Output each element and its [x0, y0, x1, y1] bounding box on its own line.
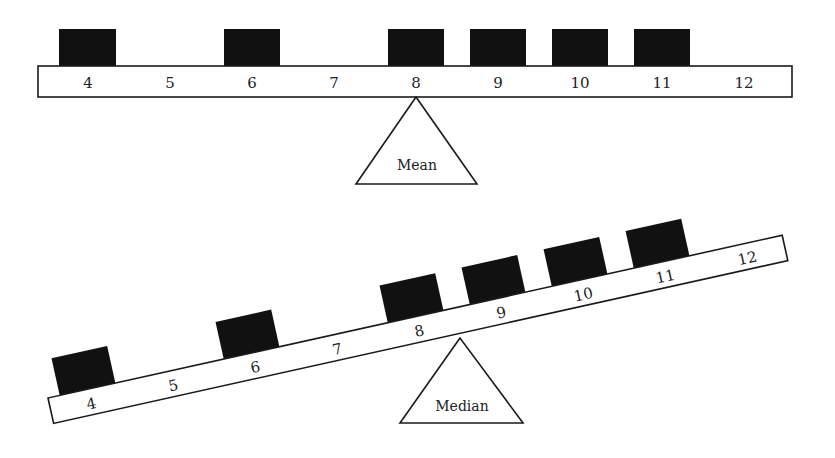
block-6 [224, 29, 280, 66]
scale-label: 4 [83, 74, 93, 92]
balance-diagram: 4 5 6 7 8 9 10 11 12 Mean 4 [0, 0, 835, 458]
scale-label: 11 [652, 74, 671, 92]
scale-label: 8 [411, 74, 421, 92]
block-11 [634, 29, 690, 66]
scale-label: 6 [247, 74, 257, 92]
block-10 [552, 29, 608, 66]
block-9 [470, 29, 526, 66]
scale-label: 7 [329, 74, 339, 92]
scale-label: 9 [493, 74, 503, 92]
scale-label: 10 [570, 74, 589, 92]
scale-label: 12 [734, 74, 753, 92]
scale-label: 5 [165, 74, 175, 92]
mean-balance-panel: 4 5 6 7 8 9 10 11 12 Mean [38, 29, 792, 184]
blocks [51, 219, 689, 396]
median-label: Median [435, 398, 488, 414]
block-8 [388, 29, 444, 66]
median-balance-panel: 4 5 6 7 8 9 10 11 12 Median [40, 198, 788, 423]
block-4 [59, 29, 116, 66]
blocks [59, 29, 690, 66]
mean-label: Mean [397, 157, 437, 173]
